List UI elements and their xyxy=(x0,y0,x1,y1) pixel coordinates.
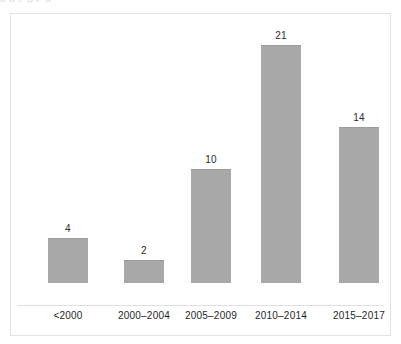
bar-value-label-2: 10 xyxy=(173,154,249,166)
bar-value-label-1: 2 xyxy=(106,245,182,257)
bar-4[interactable] xyxy=(339,127,379,283)
x-axis-label-1: 2000–2004 xyxy=(106,310,182,321)
bar-2[interactable] xyxy=(191,169,231,283)
chart-frame: 4 2 10 21 14 <2000 2000–2004 2005–2009 2… xyxy=(10,13,391,336)
x-axis-label-4: 2015–2017 xyxy=(321,310,397,321)
clipped-caption-text: g g y g p g xyxy=(0,0,51,2)
bar-group-1[interactable]: 2 xyxy=(106,245,182,283)
bar-0[interactable] xyxy=(48,238,88,283)
bar-value-label-3: 21 xyxy=(243,30,319,42)
bar-group-4[interactable]: 14 xyxy=(321,112,397,283)
x-axis-label-2: 2005–2009 xyxy=(173,310,249,321)
x-axis-line xyxy=(17,305,384,306)
bar-1[interactable] xyxy=(124,260,164,283)
x-axis-label-0: <2000 xyxy=(30,310,106,321)
bar-value-label-4: 14 xyxy=(321,112,397,124)
plot-area: 4 2 10 21 14 <2000 2000–2004 2005–2009 2… xyxy=(11,14,390,335)
bar-group-2[interactable]: 10 xyxy=(173,154,249,283)
bar-group-0[interactable]: 4 xyxy=(30,223,106,283)
bar-value-label-0: 4 xyxy=(30,223,106,235)
clipped-caption-strip: g g y g p g xyxy=(0,0,401,9)
bar-group-3[interactable]: 21 xyxy=(243,30,319,283)
bar-3[interactable] xyxy=(261,45,301,283)
x-axis-label-3: 2010–2014 xyxy=(243,310,319,321)
